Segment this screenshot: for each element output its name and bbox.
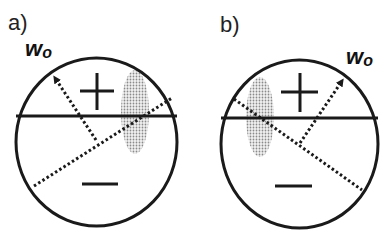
panel-a-weight-arrow — [55, 78, 96, 140]
panel-a-dotted-hyperplane — [34, 98, 172, 186]
panel-b-plus-sign — [281, 73, 318, 112]
panel-a-shaded-region — [121, 70, 149, 154]
panel-b-label: b) — [220, 12, 240, 37]
panel-a-weight-label: wo — [25, 36, 52, 61]
panel-a-plus-sign — [80, 73, 114, 110]
panel-b: b) wo — [220, 12, 378, 228]
panel-b-weight-arrow — [300, 81, 342, 143]
diagram-canvas: a) wo b) wo — [0, 0, 390, 237]
panel-a: a) wo — [8, 10, 177, 226]
panel-b-weight-label: wo — [346, 44, 373, 69]
panel-a-label: a) — [8, 10, 28, 35]
